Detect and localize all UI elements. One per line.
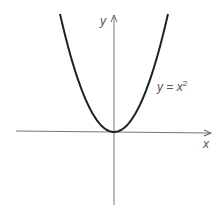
curve-label-base: y = x: [157, 80, 183, 94]
parabola-chart: y x y = x2: [0, 0, 222, 213]
y-axis-label: y: [100, 15, 106, 27]
curve-label: y = x2: [157, 80, 187, 93]
curve-label-exponent: 2: [183, 79, 187, 88]
chart-canvas: [0, 0, 222, 213]
x-axis-label: x: [203, 138, 209, 150]
